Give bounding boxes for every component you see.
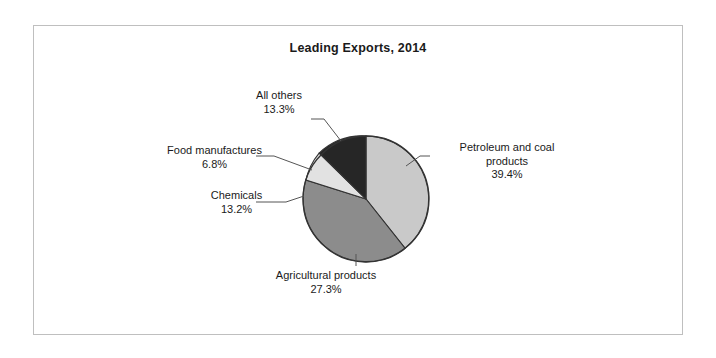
pie-label-all-others: All others 13.3% xyxy=(224,89,334,116)
pie-label-agricultural-percent: 27.3% xyxy=(246,283,406,297)
pie-label-chemicals-percent: 13.2% xyxy=(179,203,294,217)
pie-label-food-manufactures-percent: 6.8% xyxy=(142,158,287,172)
pie-label-petroleum-and-coal-products: Petroleum and coal products 39.4% xyxy=(432,141,582,182)
pie-label-food-manufactures: Food manufactures 6.8% xyxy=(142,144,287,171)
pie-label-agricultural-products: Agricultural products 27.3% xyxy=(246,269,406,296)
leader-line-all-others xyxy=(311,119,341,141)
pie-label-agricultural-name: Agricultural products xyxy=(246,269,406,283)
pie-label-food-manufactures-name: Food manufactures xyxy=(142,144,287,158)
pie-label-all-others-name: All others xyxy=(224,89,334,103)
pie-label-petroleum-line2: products xyxy=(432,155,582,169)
pie-label-petroleum-line1: Petroleum and coal xyxy=(432,141,582,155)
pie-label-chemicals: Chemicals 13.2% xyxy=(179,189,294,216)
chart-frame: Leading Exports, 2014 xyxy=(33,25,683,335)
pie-label-all-others-percent: 13.3% xyxy=(224,103,334,117)
pie-label-petroleum-percent: 39.4% xyxy=(432,168,582,182)
pie-label-chemicals-name: Chemicals xyxy=(179,189,294,203)
